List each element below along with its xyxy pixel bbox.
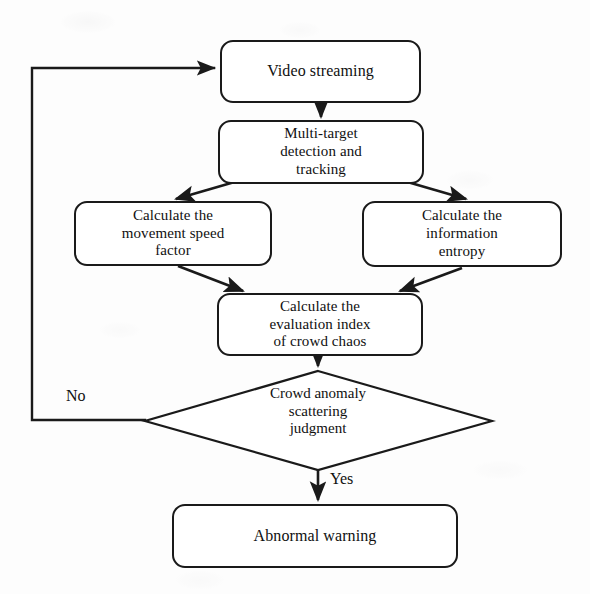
edge-label-no: No <box>66 387 86 405</box>
node-multi-target-detection[interactable]: Multi-target detection and tracking <box>218 120 424 184</box>
edge-entropy-to-evaluation <box>400 268 462 291</box>
node-movement-speed-factor-label: Calculate the movement speed factor <box>116 207 231 260</box>
node-information-entropy-label: Calculate the information entropy <box>416 207 508 260</box>
node-abnormal-warning-label: Abnormal warning <box>248 527 383 546</box>
node-multi-target-detection-label: Multi-target detection and tracking <box>274 125 368 178</box>
node-video-streaming[interactable]: Video streaming <box>220 40 421 103</box>
node-abnormal-warning[interactable]: Abnormal warning <box>172 504 458 568</box>
node-video-streaming-label: Video streaming <box>261 62 380 81</box>
node-movement-speed-factor[interactable]: Calculate the movement speed factor <box>74 201 272 266</box>
node-evaluation-index-label: Calculate the evaluation index of crowd … <box>263 298 376 351</box>
node-evaluation-index[interactable]: Calculate the evaluation index of crowd … <box>217 293 423 356</box>
edge-speed-to-evaluation <box>178 266 243 291</box>
decision-diamond-shape <box>145 371 492 470</box>
flowchart-diagram: Video streaming Multi-target detection a… <box>0 0 590 594</box>
edge-label-yes: Yes <box>330 470 353 488</box>
node-information-entropy[interactable]: Calculate the information entropy <box>362 201 562 267</box>
